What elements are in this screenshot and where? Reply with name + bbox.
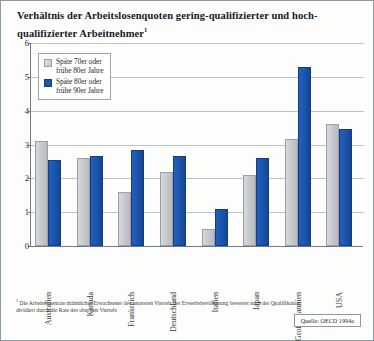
- page-title: Verhältnis der Arbeitslosenquoten gering…: [17, 9, 359, 40]
- bar: [173, 156, 186, 246]
- bar: [131, 150, 144, 246]
- bar-group: [198, 43, 240, 246]
- footnote-text: Die Arbeitslosenrate männlicher Erwachse…: [16, 300, 301, 314]
- legend: Späte 70er oder frühe 80er JahreSpäte 80…: [38, 53, 111, 100]
- bar: [48, 160, 61, 246]
- y-axis-tick-label: 0: [7, 241, 29, 251]
- legend-item: Späte 80er oder frühe 90er Jahre: [44, 78, 103, 95]
- bar: [285, 139, 298, 246]
- y-axis-tick-label: 5: [7, 71, 29, 81]
- source-note: Quelle: OECD 1994a: [294, 314, 361, 327]
- bar: [298, 67, 311, 246]
- bar-group: [156, 43, 198, 246]
- legend-item-label: Späte 80er oder frühe 90er Jahre: [56, 78, 103, 95]
- y-axis-tick-label: 6: [7, 38, 29, 48]
- bar: [118, 192, 131, 246]
- bar: [326, 124, 339, 246]
- legend-swatch-new: [44, 79, 52, 87]
- bar-group: [322, 43, 364, 246]
- bar-group: [281, 43, 323, 246]
- legend-item-label: Späte 70er oder frühe 80er Jahre: [56, 58, 103, 75]
- bar: [339, 129, 352, 246]
- bar: [35, 141, 48, 246]
- y-axis-tick-label: 3: [7, 139, 29, 149]
- bar: [215, 209, 228, 246]
- legend-item: Späte 70er oder frühe 80er Jahre: [44, 58, 103, 75]
- footnote-marker: 1: [16, 298, 18, 303]
- bar: [77, 158, 90, 246]
- bar: [160, 172, 173, 246]
- y-axis-tick-label: 1: [7, 207, 29, 217]
- y-axis-tick-label: 2: [7, 173, 29, 183]
- bar: [256, 158, 269, 246]
- bar-group: [239, 43, 281, 246]
- y-axis-tick-label: 4: [7, 105, 29, 115]
- bar: [243, 175, 256, 246]
- page-title-text: Verhältnis der Arbeitslosenquoten gering…: [17, 10, 318, 38]
- legend-swatch-old: [44, 59, 52, 67]
- bar-group: [114, 43, 156, 246]
- bar: [202, 229, 215, 246]
- bar: [90, 156, 103, 246]
- chart-page: Verhältnis der Arbeitslosenquoten gering…: [0, 0, 374, 341]
- source-text: Quelle: OECD 1994a: [301, 317, 354, 324]
- footnote: 1 Die Arbeitslosenrate männlicher Erwach…: [16, 297, 303, 315]
- title-footnote-marker: 1: [144, 26, 147, 33]
